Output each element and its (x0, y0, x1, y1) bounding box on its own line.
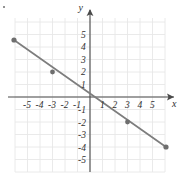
data-point (11, 37, 16, 42)
y-tick-label-4: 4 (81, 43, 86, 53)
y-axis-label: y (79, 3, 83, 13)
x-tick-label-minus-3: -3 (48, 101, 56, 111)
y-tick-label-2: 2 (81, 68, 86, 78)
y-tick-label-minus-1: -1 (78, 106, 86, 116)
data-point (163, 144, 168, 149)
x-tick-label-3: 3 (125, 101, 130, 111)
x-tick-label-2: 2 (113, 101, 118, 111)
data-point (50, 70, 55, 75)
y-tick-label-minus-2: -2 (78, 119, 86, 129)
x-tick-label-5: 5 (150, 101, 155, 111)
x-tick-label-1: 1 (100, 101, 105, 111)
y-tick-label-minus-4: -4 (78, 144, 86, 154)
y-tick-label-1: 1 (81, 81, 86, 91)
x-axis-label: x (172, 99, 176, 109)
y-tick-label-minus-5: -5 (78, 156, 86, 166)
coordinate-plane-figure: -5 -4 -3 -2 -1 1 2 3 4 5 5 4 3 2 1 -1 -2… (0, 0, 183, 181)
y-tick-label-minus-3: -3 (78, 131, 86, 141)
x-tick-label-minus-5: -5 (23, 101, 31, 111)
x-tick-label-minus-4: -4 (36, 101, 44, 111)
axis-arrowheads (87, 9, 174, 100)
data-point (125, 120, 130, 125)
plot-canvas (0, 0, 183, 181)
x-tick-label-4: 4 (138, 101, 143, 111)
x-tick-label-minus-2: -2 (61, 101, 69, 111)
y-tick-label-3: 3 (81, 56, 86, 66)
y-tick-label-5: 5 (81, 31, 86, 41)
